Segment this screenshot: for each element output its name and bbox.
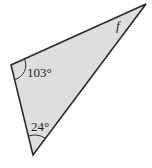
angle-label-bottom: 24° xyxy=(31,119,49,134)
angle-label-left: 103° xyxy=(27,65,52,80)
triangle-diagram: 103° 24° f xyxy=(0,0,152,168)
